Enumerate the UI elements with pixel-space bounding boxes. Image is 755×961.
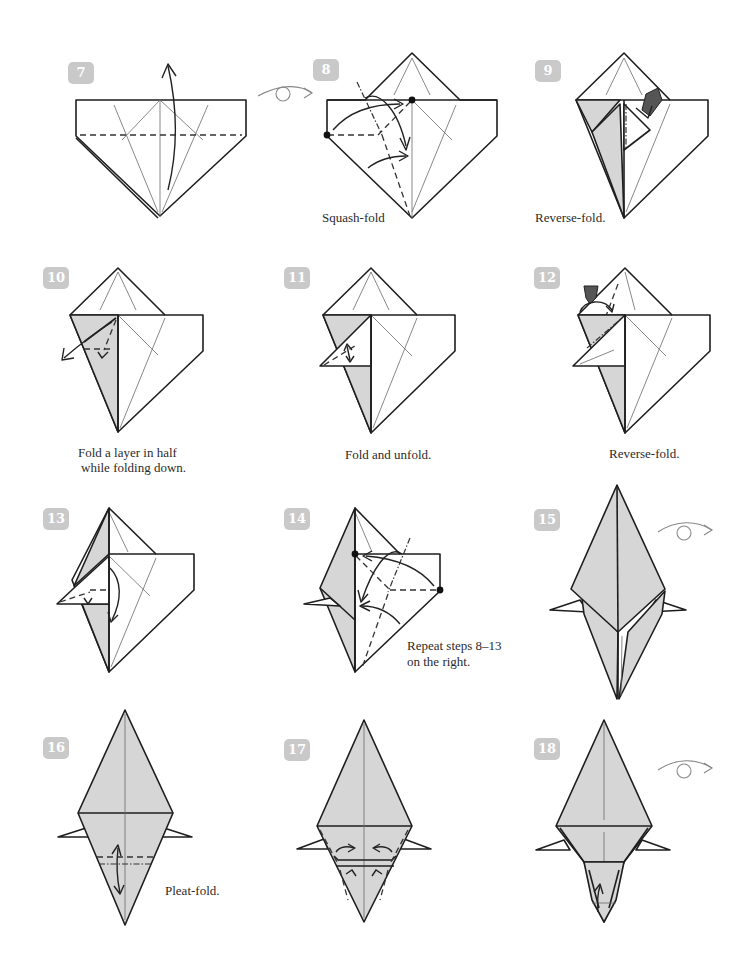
turn-over-icon <box>0 0 755 961</box>
